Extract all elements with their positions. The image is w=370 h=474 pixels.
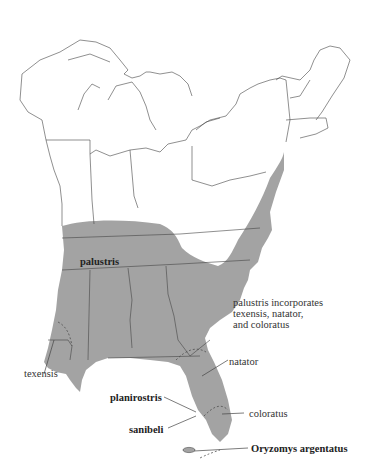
label-texensis: texensis xyxy=(24,368,58,379)
label-natator: natator xyxy=(229,356,258,367)
label-incorporates-3: and coloratus xyxy=(233,319,289,330)
label-coloratus: coloratus xyxy=(249,408,288,419)
range-map xyxy=(0,0,370,474)
argentatus-island xyxy=(183,447,195,452)
label-planirostris: planirostris xyxy=(110,392,162,403)
label-incorporates-2: texensis, natator, xyxy=(233,308,303,319)
label-palustris: palustris xyxy=(80,256,119,267)
label-oryzomys-argentatus: Oryzomys argentatus xyxy=(251,443,348,454)
label-incorporates-1: palustris incorporates xyxy=(233,297,323,308)
label-sanibeli: sanibeli xyxy=(129,424,163,435)
